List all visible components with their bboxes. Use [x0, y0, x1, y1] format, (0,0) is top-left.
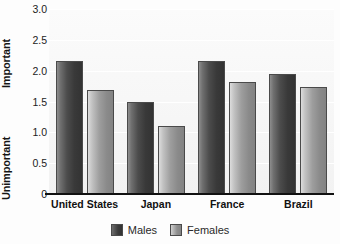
gridline [49, 40, 334, 41]
y-tick-label: 2.0 [32, 65, 47, 76]
y-axis-tick-labels: 00.51.01.52.02.53.0 [17, 0, 47, 244]
bar [87, 90, 114, 194]
y-tick-label: 0.5 [32, 158, 47, 169]
bar [198, 61, 225, 194]
gridline [49, 9, 334, 10]
bar [158, 126, 185, 194]
bar [127, 102, 154, 195]
bar [300, 87, 327, 194]
y-tick-label: 2.5 [32, 35, 47, 46]
x-axis-line [45, 193, 334, 195]
bar [56, 61, 83, 194]
legend-swatch-icon [170, 224, 182, 236]
x-axis-category-label: Brazil [284, 198, 313, 210]
y-tick-label: 1.0 [32, 127, 47, 138]
bar [269, 74, 296, 194]
y-axis-caption-unimportant: Unimportant [0, 184, 12, 200]
y-tick-label: 1.5 [32, 96, 47, 107]
legend-swatch-icon [111, 224, 123, 236]
y-axis-caption-important: Important [0, 72, 12, 88]
gridline [49, 71, 334, 72]
legend: MalesFemales [0, 224, 340, 236]
legend-item: Females [170, 224, 229, 236]
y-tick-label: 3.0 [32, 4, 47, 15]
legend-label: Males [128, 224, 157, 236]
legend-label: Females [187, 224, 229, 236]
bar-chart: Important Unimportant 00.51.01.52.02.53.… [0, 0, 340, 244]
x-axis-category-label: France [210, 198, 244, 210]
bar [229, 82, 256, 194]
plot-area [49, 9, 334, 194]
x-axis-category-label: Japan [141, 198, 171, 210]
legend-item: Males [111, 224, 157, 236]
x-axis-category-label: United States [51, 198, 118, 210]
